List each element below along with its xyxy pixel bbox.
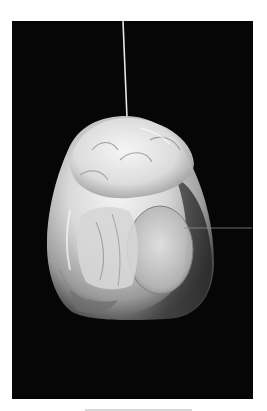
photograph — [0, 0, 267, 411]
